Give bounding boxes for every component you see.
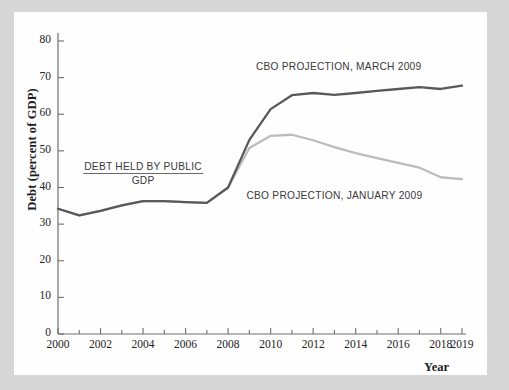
x-tick-label: 2000 [41,338,75,350]
y-tick-label: 70 [25,70,51,82]
y-tick-label: 50 [25,143,51,155]
x-tick-label: 2012 [296,338,330,350]
x-tick-label: 2010 [254,338,288,350]
x-tick-label: 2004 [126,338,160,350]
annotation-march-projection: CBO PROJECTION, MARCH 2009 [256,61,422,72]
annotation-january-projection: CBO PROJECTION, JANUARY 2009 [246,190,422,201]
y-tick-label: 40 [25,180,51,192]
y-tick-label: 80 [25,33,51,45]
y-tick-label: 20 [25,253,51,265]
chart-card: Debt (percent of GDP) Year 0102030405060… [14,12,487,375]
x-tick-label: 2002 [84,338,118,350]
x-tick-label: 2016 [381,338,415,350]
y-tick-label: 30 [25,216,51,228]
y-tick-label: 0 [25,326,51,338]
x-tick-label: 2014 [339,338,373,350]
y-tick-label: 60 [25,106,51,118]
figure-container: Debt (percent of GDP) Year 0102030405060… [0,0,509,390]
debt-ratio-numerator: DEBT HELD BY PUBLIC [83,161,203,174]
x-tick-label: 2019 [445,338,479,350]
y-tick-label: 10 [25,289,51,301]
x-tick-label: 2006 [169,338,203,350]
debt-ratio-denominator: GDP [83,174,203,186]
x-tick-label: 2008 [211,338,245,350]
debt-ratio-annotation: DEBT HELD BY PUBLIC GDP [83,161,203,186]
